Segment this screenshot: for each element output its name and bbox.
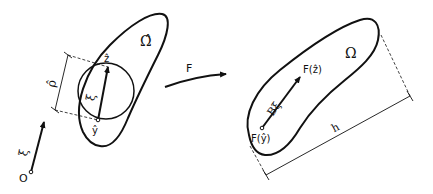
reference-element-group: Ω̂ ẑ ŷ ξ ρ̂ O ξ bbox=[16, 14, 168, 185]
h-extension-right bbox=[381, 35, 410, 96]
physical-element-group: Ω F(ẑ) F(ŷ) Bξ h bbox=[247, 19, 413, 180]
diameter-label: ρ̂ bbox=[44, 79, 59, 89]
physical-domain-label: Ω bbox=[345, 45, 357, 61]
origin-point bbox=[29, 170, 33, 174]
origin-vector-label: ξ bbox=[16, 148, 31, 158]
reference-domain-label: Ω̂ bbox=[140, 33, 152, 49]
extension-line-top bbox=[68, 55, 108, 67]
affine-mapping-diagram: Ω̂ ẑ ŷ ξ ρ̂ O ξ F Ω F(ẑ) F(ŷ) Bξ bbox=[0, 0, 433, 194]
h-label: h bbox=[329, 120, 341, 135]
reference-inscribed-circle bbox=[78, 63, 134, 119]
origin-label: O bbox=[19, 172, 28, 185]
mapping-group: F bbox=[165, 62, 226, 87]
point-y-hat-label: ŷ bbox=[92, 125, 98, 136]
reference-vector-arrow bbox=[98, 67, 108, 120]
point-F-z-hat-label: F(ẑ) bbox=[303, 64, 322, 75]
point-F-y-hat bbox=[260, 126, 264, 130]
inner-vector-label: ξ bbox=[83, 92, 98, 102]
h-dimension-line bbox=[266, 96, 410, 175]
mapping-label: F bbox=[186, 62, 192, 75]
physical-vector-arrow bbox=[262, 77, 300, 128]
mapping-arrow bbox=[165, 74, 226, 87]
origin-vector-arrow bbox=[31, 122, 44, 172]
point-F-y-hat-label: F(ŷ) bbox=[251, 133, 271, 144]
point-z-hat-label: ẑ bbox=[104, 53, 109, 64]
